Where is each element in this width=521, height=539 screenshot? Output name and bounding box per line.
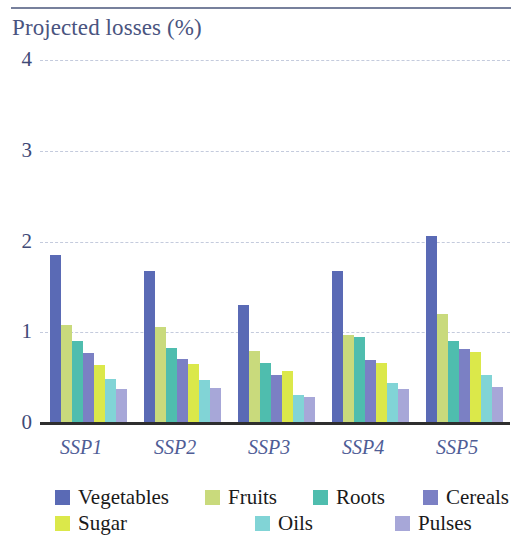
legend-swatch-vegetables-icon: [55, 490, 70, 505]
legend-row-2: SugarOilsPulses: [55, 510, 511, 536]
bar-ssp1-oils: [105, 379, 116, 423]
chart-legend: VegetablesFruitsRootsCereals SugarOilsPu…: [55, 484, 511, 536]
y-axis-ticks: 43210: [0, 60, 32, 424]
bar-ssp2-fruits: [155, 327, 166, 423]
legend-label: Sugar: [78, 513, 127, 534]
y-tick-label-1: 1: [6, 321, 32, 342]
bar-ssp4-pulses: [398, 389, 409, 423]
bar-ssp5-sugar: [470, 352, 481, 423]
bar-ssp5-oils: [481, 375, 492, 423]
bar-ssp3-cereals: [271, 375, 282, 423]
bar-ssp5-fruits: [437, 314, 448, 423]
legend-item-vegetables[interactable]: Vegetables: [55, 487, 205, 508]
bar-group-inner: [426, 60, 503, 423]
legend-swatch-roots-icon: [313, 490, 328, 505]
legend-label: Oils: [278, 513, 313, 534]
legend-item-roots[interactable]: Roots: [313, 487, 423, 508]
bar-ssp3-pulses: [304, 397, 315, 423]
bar-ssp1-cereals: [83, 353, 94, 423]
bar-ssp4-oils: [387, 383, 398, 423]
y-tick-label-2: 2: [6, 231, 32, 252]
bar-ssp2-vegetables: [144, 271, 155, 423]
bar-group-inner: [238, 60, 315, 423]
bar-ssp1-fruits: [61, 325, 72, 423]
legend-label: Vegetables: [78, 487, 169, 508]
bar-group-ssp1: [40, 60, 134, 423]
legend-swatch-oils-icon: [255, 516, 270, 531]
bar-ssp4-cereals: [365, 360, 376, 423]
legend-label: Cereals: [446, 487, 509, 508]
bar-group-ssp3: [228, 60, 322, 423]
legend-swatch-pulses-icon: [395, 516, 410, 531]
bar-ssp3-fruits: [249, 351, 260, 423]
bar-group-inner: [144, 60, 221, 423]
x-tick-label-ssp5: SSP5: [416, 436, 510, 466]
bar-groups: [40, 60, 510, 423]
bar-ssp2-sugar: [188, 364, 199, 423]
legend-label: Fruits: [228, 487, 277, 508]
bar-ssp2-cereals: [177, 359, 188, 423]
legend-swatch-cereals-icon: [423, 490, 438, 505]
legend-swatch-sugar-icon: [55, 516, 70, 531]
legend-swatch-fruits-icon: [205, 490, 220, 505]
bar-ssp3-sugar: [282, 371, 293, 423]
top-divider-rule: [11, 7, 511, 9]
bar-group-ssp2: [134, 60, 228, 423]
chart-title: Projected losses (%): [12, 14, 202, 42]
x-tick-label-ssp4: SSP4: [322, 436, 416, 466]
bar-ssp3-roots: [260, 363, 271, 423]
bar-group-ssp5: [416, 60, 510, 423]
bar-ssp4-roots: [354, 337, 365, 423]
legend-item-fruits[interactable]: Fruits: [205, 487, 313, 508]
bar-group-inner: [332, 60, 409, 423]
bar-group-ssp4: [322, 60, 416, 423]
x-tick-label-ssp1: SSP1: [40, 436, 134, 466]
bar-ssp3-oils: [293, 395, 304, 423]
y-tick-label-3: 3: [6, 140, 32, 161]
legend-label: Pulses: [418, 513, 472, 534]
bar-ssp1-vegetables: [50, 255, 61, 423]
bar-ssp4-vegetables: [332, 271, 343, 423]
legend-label: Roots: [336, 487, 385, 508]
y-tick-label-4: 4: [6, 49, 32, 70]
legend-item-cereals[interactable]: Cereals: [423, 487, 509, 508]
x-axis-ticks: SSP1SSP2SSP3SSP4SSP5: [40, 436, 510, 466]
chart-figure: Projected losses (%) 43210 SSP1SSP2SSP3S…: [0, 0, 521, 539]
bar-ssp1-pulses: [116, 389, 127, 423]
bar-ssp5-vegetables: [426, 236, 437, 423]
x-tick-label-ssp2: SSP2: [134, 436, 228, 466]
bar-ssp4-fruits: [343, 335, 354, 423]
x-tick-label-ssp3: SSP3: [228, 436, 322, 466]
x-axis-baseline: [40, 422, 510, 425]
legend-item-oils[interactable]: Oils: [255, 513, 395, 534]
bar-ssp2-oils: [199, 380, 210, 423]
legend-item-pulses[interactable]: Pulses: [395, 513, 472, 534]
bar-ssp1-roots: [72, 341, 83, 423]
bar-ssp5-roots: [448, 341, 459, 423]
bar-group-inner: [50, 60, 127, 423]
bar-ssp4-sugar: [376, 363, 387, 423]
bar-ssp1-sugar: [94, 365, 105, 423]
legend-row-1: VegetablesFruitsRootsCereals: [55, 484, 511, 510]
legend-item-sugar[interactable]: Sugar: [55, 513, 255, 534]
bar-ssp5-cereals: [459, 349, 470, 423]
bar-ssp2-roots: [166, 348, 177, 423]
bar-ssp5-pulses: [492, 387, 503, 423]
bar-ssp2-pulses: [210, 388, 221, 423]
bar-ssp3-vegetables: [238, 305, 249, 423]
y-tick-label-0: 0: [6, 412, 32, 433]
